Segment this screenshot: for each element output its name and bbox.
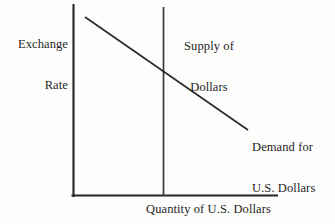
supply-curve-label-line-2: Dollars: [172, 81, 246, 95]
y-axis-label-line-1: Exchange: [4, 38, 68, 52]
y-axis-label-line-2: Rate: [4, 79, 68, 93]
y-axis-label: Exchange Rate: [4, 11, 68, 119]
supply-curve-label: Supply of Dollars: [172, 13, 246, 121]
demand-curve-label-line-2: U.S. Dollars: [252, 182, 315, 196]
supply-demand-diagram: Exchange Rate Supply of Dollars Demand f…: [0, 0, 335, 224]
x-axis-label: Quantity of U.S. Dollars: [146, 203, 271, 217]
supply-curve-label-line-1: Supply of: [172, 40, 246, 54]
demand-curve-label-line-1: Demand for: [252, 141, 315, 155]
